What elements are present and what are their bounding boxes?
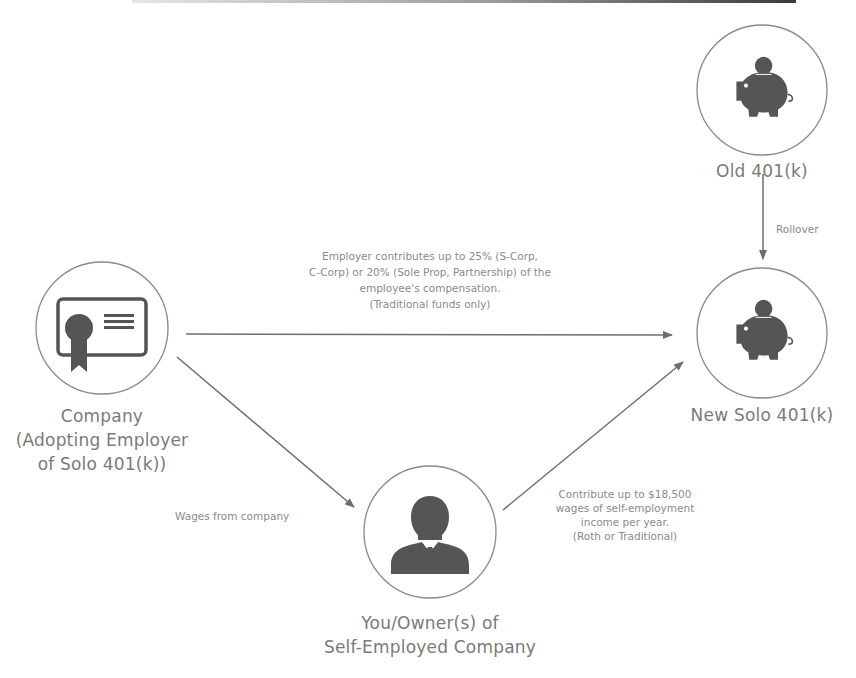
company-node-circle: [36, 262, 168, 394]
wages-arrow: [177, 357, 354, 507]
owner-label: You/Owner(s) of Self-Employed Company: [320, 611, 540, 659]
piggy-bank-icon: [736, 300, 792, 360]
businessman-icon: [391, 496, 469, 574]
company-label: Company (Adopting Employer of Solo 401(k…: [2, 404, 202, 476]
employer-contribution-label: Employer contributes up to 25% (S-Corp, …: [262, 248, 598, 312]
new-solo-401k-label: New Solo 401(k): [672, 404, 852, 426]
certificate-icon: [58, 299, 146, 372]
piggy-bank-icon: [736, 57, 792, 117]
employee-contribution-label: Contribute up to $18,500 wages of self-e…: [540, 487, 710, 543]
diagram-canvas: [0, 0, 856, 678]
old-401k-label: Old 401(k): [682, 160, 842, 182]
wages-label: Wages from company: [175, 509, 335, 523]
employer-contribution-arrow: [186, 334, 672, 335]
rollover-label: Rollover: [776, 222, 836, 236]
